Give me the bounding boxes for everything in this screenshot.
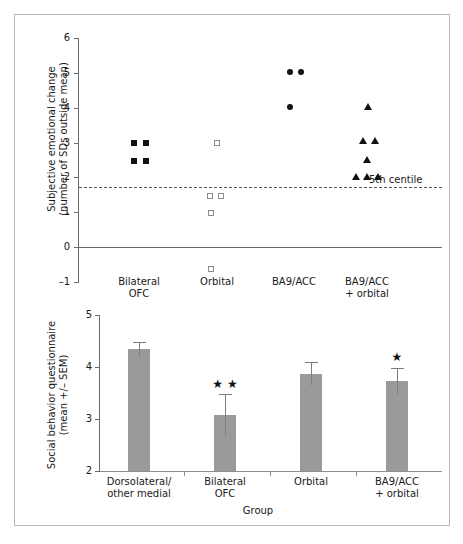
bar-x-axis-title: Group xyxy=(208,505,308,517)
errorbar-cap-ba9-acc-orbital xyxy=(391,368,404,369)
scatter-point-ba9-acc-orbital xyxy=(364,103,372,110)
bar-category-label-dorsolateral-other-medial: Dorsolateral/ other medial xyxy=(94,476,184,500)
scatter-category-label-orbital: Orbital xyxy=(177,276,257,288)
errorbar-orbital xyxy=(311,362,312,385)
scatter-point-ba9-acc-orbital xyxy=(363,173,371,180)
bar-y-ticklabel-4: 4 xyxy=(74,362,92,372)
scatter-y-ticklabel-0: 0 xyxy=(50,242,70,252)
significance-marker-ba9-acc-orbital: ★ xyxy=(377,351,417,363)
scatter-y-tick-6 xyxy=(74,38,79,39)
bar-dorsolateral-other-medial xyxy=(128,349,150,471)
scatter-y-ticklabel-4: 4 xyxy=(50,103,70,113)
scatter-y-tick-2 xyxy=(74,177,79,178)
bar-y-axis-line xyxy=(99,315,100,471)
scatter-zero-line xyxy=(79,247,442,248)
scatter-y-ticklabel-neg1: –1 xyxy=(46,277,70,287)
figure-container: Subjective emotional change (number of S… xyxy=(0,0,463,544)
bar-y-tick-4 xyxy=(95,367,100,368)
scatter-y-tick-1 xyxy=(74,212,79,213)
bar-y-ticklabel-2: 2 xyxy=(74,466,92,476)
scatter-point-ba9-acc-orbital xyxy=(352,173,360,180)
errorbar-cap-dorsolateral-other-medial xyxy=(133,342,146,343)
significance-marker-bilateral-ofc: ★ ★ xyxy=(200,378,250,390)
scatter-point-orbital xyxy=(214,140,220,146)
scatter-y-ticklabel-1: 1 xyxy=(50,207,70,217)
scatter-point-bilateral-ofc xyxy=(131,158,137,164)
scatter-y-tick-4 xyxy=(74,108,79,109)
scatter-y-ticklabel-5: 5 xyxy=(50,68,70,78)
scatter-point-ba9-acc-orbital xyxy=(359,137,367,144)
scatter-y-tick-neg1 xyxy=(74,282,79,283)
scatter-y-ticklabel-3: 3 xyxy=(50,138,70,148)
errorbar-bilateral-ofc xyxy=(225,394,226,437)
scatter-point-orbital xyxy=(218,193,224,199)
bar-category-label-ba9-acc-orbital: BA9/ACC + orbital xyxy=(352,476,442,500)
bar-y-tick-5 xyxy=(95,315,100,316)
scatter-category-label-ba9-acc-orbital: BA9/ACC + orbital xyxy=(327,276,407,300)
errorbar-cap-bilateral-ofc xyxy=(219,394,232,395)
scatter-y-tick-5 xyxy=(74,73,79,74)
bar-ba9-acc-orbital xyxy=(386,381,408,472)
errorbar-cap-orbital xyxy=(305,362,318,363)
scatter-point-ba9-acc-orbital xyxy=(374,173,382,180)
scatter-point-ba9-acc xyxy=(287,104,293,110)
scatter-point-ba9-acc-orbital xyxy=(371,137,379,144)
scatter-category-label-ba9-acc: BA9/ACC xyxy=(254,276,334,288)
scatter-point-ba9-acc xyxy=(287,69,293,75)
scatter-point-orbital xyxy=(208,210,214,216)
scatter-point-bilateral-ofc xyxy=(143,158,149,164)
scatter-point-orbital xyxy=(207,193,213,199)
bar-y-axis-title: Social behavior questionnaire (mean +/– … xyxy=(46,310,70,480)
scatter-y-tick-3 xyxy=(74,143,79,144)
scatter-y-ticklabel-2: 2 xyxy=(50,172,70,182)
scatter-panel: Subjective emotional change (number of S… xyxy=(22,22,442,300)
scatter-category-label-bilateral-ofc: Bilateral OFC xyxy=(99,276,179,300)
scatter-point-orbital xyxy=(208,266,214,272)
bar-x-axis-line xyxy=(100,471,442,472)
scatter-point-bilateral-ofc xyxy=(131,140,137,146)
scatter-point-ba9-acc xyxy=(298,69,304,75)
scatter-point-ba9-acc-orbital xyxy=(363,156,371,163)
bar-category-label-orbital: Orbital xyxy=(266,476,356,488)
errorbar-ba9-acc-orbital xyxy=(397,368,398,394)
fifth-centile-line xyxy=(79,187,442,188)
bar-y-ticklabel-3: 3 xyxy=(74,414,92,424)
bar-orbital xyxy=(300,374,322,471)
scatter-point-bilateral-ofc xyxy=(143,140,149,146)
errorbar-dorsolateral-other-medial xyxy=(139,342,140,357)
bar-panel: Social behavior questionnaire (mean +/– … xyxy=(22,300,442,524)
scatter-y-ticklabel-6: 6 xyxy=(50,33,70,43)
bar-y-tick-3 xyxy=(95,419,100,420)
scatter-y-axis-line xyxy=(78,38,79,282)
bar-category-label-bilateral-ofc: Bilateral OFC xyxy=(180,476,270,500)
bar-y-ticklabel-5: 5 xyxy=(74,310,92,320)
